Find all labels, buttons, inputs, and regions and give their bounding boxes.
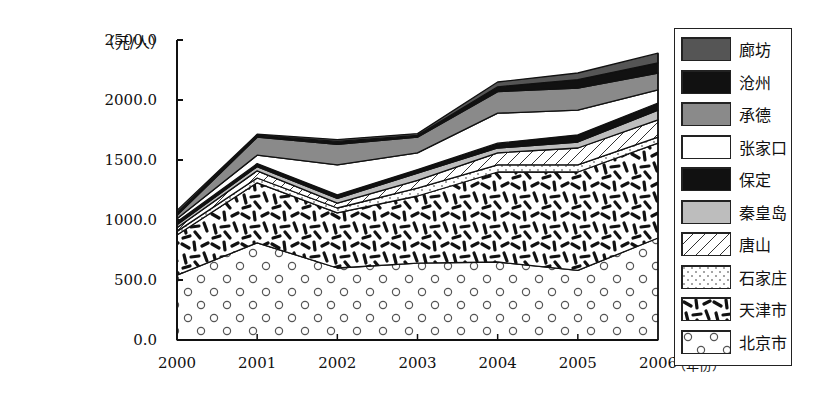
y-axis-label: （元/人） [100, 34, 165, 52]
legend-item: 石家庄 [681, 263, 787, 291]
legend-label: 廊坊 [739, 37, 771, 61]
legend-swatch [681, 200, 731, 224]
legend-label: 北京市 [739, 330, 787, 354]
x-tick-label: 2004 [479, 354, 517, 372]
legend-item: 沧州 [681, 68, 771, 96]
legend-label: 天津市 [739, 297, 787, 321]
legend-item: 张家口 [681, 133, 787, 161]
legend-swatch [681, 265, 731, 289]
y-tick-label: 2000.0 [105, 91, 158, 109]
legend-swatch [681, 102, 731, 126]
legend-swatch [681, 37, 731, 61]
legend-item: 秦皇岛 [681, 198, 787, 226]
x-tick-label: 2000 [158, 354, 196, 372]
x-tick-label: 2006 [639, 354, 677, 372]
legend-item: 天津市 [681, 295, 787, 323]
y-tick-label: 500.0 [114, 271, 157, 289]
legend-label: 石家庄 [739, 265, 787, 289]
legend-label: 张家口 [739, 135, 787, 159]
legend-item: 承德 [681, 100, 771, 128]
legend-label: 承德 [739, 102, 771, 126]
y-tick-label: 1000.0 [105, 211, 158, 229]
legend-label: 保定 [739, 167, 771, 191]
legend-swatch [681, 135, 731, 159]
y-tick-label: 0.0 [133, 331, 157, 349]
legend-swatch [681, 70, 731, 94]
legend-swatch [681, 167, 731, 191]
legend-item: 北京市 [681, 328, 787, 356]
y-tick-label: 1500.0 [105, 151, 158, 169]
legend-item: 唐山 [681, 230, 771, 258]
legend-swatch [681, 330, 731, 354]
legend-label: 沧州 [739, 70, 771, 94]
legend-item: 保定 [681, 165, 771, 193]
legend-swatch [681, 297, 731, 321]
x-tick-label: 2002 [318, 354, 356, 372]
legend: 廊坊沧州承德张家口保定秦皇岛唐山石家庄天津市北京市 [674, 28, 792, 366]
x-tick-label: 2005 [559, 354, 597, 372]
x-tick-label: 2001 [238, 354, 276, 372]
legend-label: 秦皇岛 [739, 200, 787, 224]
x-tick-label: 2003 [398, 354, 436, 372]
legend-item: 廊坊 [681, 35, 771, 63]
legend-label: 唐山 [739, 232, 771, 256]
legend-swatch [681, 232, 731, 256]
